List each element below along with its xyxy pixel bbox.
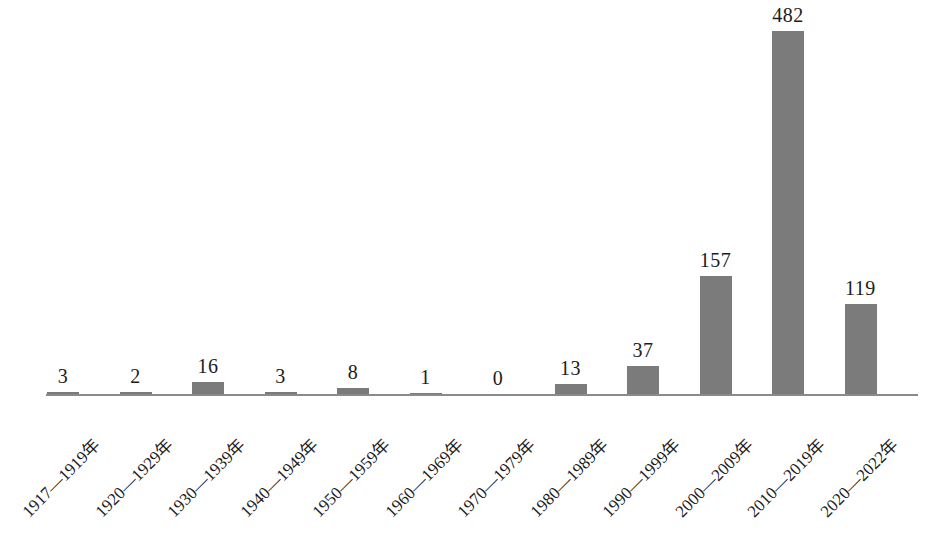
bar (192, 382, 224, 394)
bar-value-label: 482 (752, 5, 824, 25)
bar-value-label: 3 (245, 366, 317, 386)
bar (410, 393, 442, 394)
bar-value-label: 16 (172, 356, 244, 376)
bar-value-label: 157 (680, 250, 752, 270)
bar-value-label: 2 (100, 366, 172, 386)
bar-value-label: 8 (317, 362, 389, 382)
bar-value-label: 1 (390, 367, 462, 387)
bar (627, 366, 659, 394)
bar (120, 392, 152, 394)
bar (337, 388, 369, 394)
x-axis-line (46, 394, 918, 396)
bar-value-label: 0 (462, 368, 534, 388)
bar-value-label: 37 (607, 340, 679, 360)
bar (772, 31, 804, 394)
bar (845, 304, 877, 394)
bar (555, 384, 587, 394)
bar-value-label: 13 (535, 358, 607, 378)
bar-chart-figure: 321638101337157482119 1917—1919年1920—192… (0, 0, 926, 551)
bar (47, 392, 79, 394)
bar-value-label: 119 (825, 278, 897, 298)
plot-area: 321638101337157482119 1917—1919年1920—192… (0, 0, 926, 551)
bar-value-label: 3 (27, 366, 99, 386)
bar (265, 392, 297, 394)
bar (700, 276, 732, 394)
